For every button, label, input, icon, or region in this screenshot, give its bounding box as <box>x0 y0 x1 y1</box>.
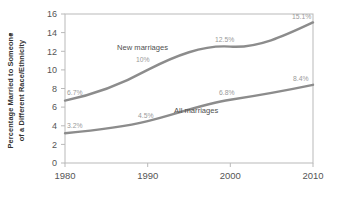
series-label-new-marriages: New marriages <box>117 43 168 52</box>
point-label-new-2000: 12.5% <box>215 36 234 43</box>
chart-figure: Percentage Married to Someone of a Diffe… <box>0 0 337 207</box>
point-label-new-1990: 10% <box>136 56 150 63</box>
x-tick-label-2000: 2000 <box>220 170 241 181</box>
point-label-all-2000: 6.8% <box>219 89 235 96</box>
point-label-new-2010: 15.1% <box>292 13 311 20</box>
point-label-all-1980: 3.2% <box>67 122 83 129</box>
y-tick-label-8: 8 <box>52 84 57 94</box>
y-tick-label-2: 2 <box>52 140 57 150</box>
x-tick-label-1980: 1980 <box>54 170 75 181</box>
y-tick-label-14: 14 <box>47 28 57 38</box>
y-tick-label-10: 10 <box>47 65 57 75</box>
point-label-all-1990: 4.5% <box>138 112 154 119</box>
y-tick-label-0: 0 <box>52 158 57 168</box>
y-axis-ticks <box>61 14 65 163</box>
plot-frame <box>65 14 313 163</box>
x-axis-ticks <box>65 163 313 167</box>
y-tick-label-4: 4 <box>52 121 57 131</box>
series-label-all-marriages: All marriages <box>174 106 219 115</box>
x-tick-label-1990: 1990 <box>137 170 158 181</box>
y-tick-label-12: 12 <box>47 47 57 57</box>
y-tick-label-6: 6 <box>52 102 57 112</box>
y-tick-label-16: 16 <box>47 9 57 19</box>
x-tick-label-2010: 2010 <box>302 170 323 181</box>
point-label-all-2010: 8.4% <box>293 75 309 82</box>
series-line-new-marriages <box>65 22 313 100</box>
chart-plot: 16 14 12 10 8 6 4 2 0 1980 1990 2000 201… <box>0 0 337 207</box>
point-label-new-1980: 6.7% <box>67 89 83 96</box>
